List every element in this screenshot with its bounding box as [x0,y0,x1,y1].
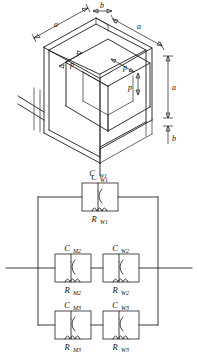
branch-3-block-2-capacitor-label: C [112,300,118,310]
dimension-label-a-top-left: a [54,20,58,29]
outer-shell-top-face [44,18,152,78]
branch-3-block-1-body [55,311,91,339]
branch-2-block-1-body [55,254,91,282]
branch-2-block-2-capacitor-label: C [112,243,118,253]
branch-3-block-2-resistor-label: R [111,342,118,352]
branch-2-block-1-resistor-icon [65,279,80,282]
branch-3-block-2-capacitor-icon [119,311,123,339]
circuit-rails [38,197,158,325]
branch-3 [38,311,158,339]
branch-3-block-1-capacitor-icon [71,311,75,339]
branch-1-resistor-label-subscript: W1 [100,219,108,225]
branch-1 [38,183,158,211]
dimension-a-top-left [32,4,90,42]
branch-3-block-2-resistor-label-subscript: W3 [121,347,129,353]
dimension-label-a-top-right: a [137,22,141,31]
branch-3-block-1-capacitor-label-subscript: M3 [72,305,81,311]
branch-2-block-1-capacitor-label-subscript: M2 [72,248,81,254]
branch-3-block-1-resistor-icon [65,336,80,339]
equivalent-circuit-diagram: C W1 R W1 [0,175,197,355]
branch-2 [38,254,158,282]
branch-3-block-2-resistor-icon [113,336,128,339]
dimension-label-p-middle: p [122,63,127,72]
branch-3-block-1-capacitor-label: C [64,300,70,310]
dimension-label-b-right: b [172,134,176,143]
figure-root: a b a a [0,0,197,355]
branch-2-block-2-body [103,254,139,282]
left-terminal-lead [18,88,44,132]
branch-1-resistor-label: R [90,214,97,224]
branch-3-block-1-resistor-label: R [63,342,70,352]
branch-3-block-2-capacitor-label-subscript: W3 [121,305,129,311]
branch-3-block-2-body [103,311,139,339]
dimension-label-p-lower: p [127,83,132,92]
branch-1-capacitor-label-subscript: W1 [100,177,108,183]
branch-1-capacitor-icon [98,183,102,211]
dimension-label-b-top: b [100,1,104,10]
cube-geometry-diagram: a b a a [0,0,197,180]
branch-1-capacitor-label: C [91,175,97,182]
dimension-p-lower [136,73,140,95]
branch-2-block-1-capacitor-label: C [64,243,70,253]
branch-1-block-1-body [82,183,118,211]
branch-2-block-1-resistor-label: R [63,285,70,295]
branch-2-block-1-resistor-label-subscript: M2 [72,290,81,296]
branch-2-block-2-resistor-label: R [111,285,118,295]
branch-2-block-1-capacitor-icon [71,254,75,282]
dimension-label-p-left: p [69,60,74,69]
branch-2-block-2-capacitor-icon [119,254,123,282]
branch-2-block-2-capacitor-label-subscript: W2 [121,248,129,254]
branch-3-block-1-resistor-label-subscript: M3 [72,347,81,353]
branch-2-block-2-resistor-label-subscript: W2 [121,290,129,296]
dimension-label-a-right: a [172,83,176,92]
branch-2-block-2-resistor-icon [113,279,128,282]
